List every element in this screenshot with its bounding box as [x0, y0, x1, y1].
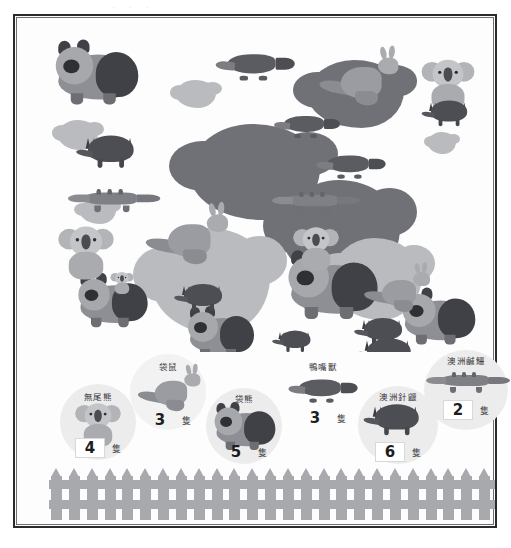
fence-picket [301, 476, 312, 520]
legend-label: 澳洲鹹鱷 [424, 354, 508, 366]
legend-item-kangaroo[interactable]: 袋鼠 3 隻 [130, 354, 206, 430]
top-cropped-text: ··· [112, 0, 302, 9]
paint-splat-light [428, 132, 456, 154]
legend-label: 無尾熊 [60, 390, 136, 402]
fence-picket-tip [69, 468, 79, 477]
legend-count: 6 隻 [358, 442, 438, 462]
legend-unit: 隻 [480, 404, 489, 417]
echidna-figure [180, 282, 228, 310]
fence-picket-tip [247, 468, 257, 477]
fence-picket-tip [265, 468, 275, 477]
crocodile-icon [432, 372, 502, 390]
fence-picket-tip [176, 468, 186, 477]
fence-picket-tip [390, 468, 400, 477]
fence-picket [336, 476, 347, 520]
legend-count-box: 2 [443, 400, 473, 420]
fence-picket [283, 476, 294, 520]
legend-unit: 隻 [258, 446, 267, 459]
legend-unit: 隻 [337, 412, 346, 425]
fence-picket [319, 476, 330, 520]
fence-picket-tip [122, 468, 132, 477]
fence-picket-tip [408, 468, 418, 477]
fence-picket-tip [158, 468, 168, 477]
fence-picket [122, 476, 133, 520]
fence-picket [69, 476, 80, 520]
fence-picket [87, 476, 98, 520]
fence-picket [51, 476, 62, 520]
page-frame: 無尾熊 4 隻 袋鼠 [13, 14, 497, 528]
fence-picket [390, 476, 401, 520]
legend-count: 2 隻 [424, 400, 508, 420]
picket-fence [49, 468, 495, 520]
fence-picket [354, 476, 365, 520]
echidna-figure [83, 133, 141, 167]
legend-item-koala[interactable]: 無尾熊 4 隻 [60, 384, 136, 460]
fence-picket [479, 476, 490, 520]
fence-picket [176, 476, 187, 520]
legend-item-platypus[interactable]: 鴨嘴獸 3 隻 [280, 354, 366, 430]
legend-count: 4 隻 [60, 438, 136, 458]
fence-picket-tip [212, 468, 222, 477]
legend-count-box: 3 [300, 408, 330, 428]
fence-picket [372, 476, 383, 520]
fence-picket-tip [354, 468, 364, 477]
fence-picket [443, 476, 454, 520]
legend-unit: 隻 [412, 446, 421, 459]
fence-picket [265, 476, 276, 520]
fence-picket [426, 476, 437, 520]
fence-picket-tip [87, 468, 97, 477]
fence-picket-tip [443, 468, 453, 477]
platypus-figure [321, 153, 380, 176]
legend-label: 袋熊 [206, 392, 282, 404]
wombat-figure [58, 45, 136, 100]
fence-picket [140, 476, 151, 520]
fence-picket [461, 476, 472, 520]
fence-picket-tip [301, 468, 311, 477]
fence-picket-tip [283, 468, 293, 477]
legend-row: 無尾熊 4 隻 袋鼠 [30, 346, 510, 461]
fence-picket-tip [372, 468, 382, 477]
platypus-figure [220, 52, 287, 78]
kangaroo-figure [151, 212, 226, 275]
legend-unit: 隻 [112, 442, 121, 455]
legend-count: 5 隻 [206, 442, 282, 462]
animals-scene [30, 32, 510, 352]
fence-picket [229, 476, 240, 520]
fence-picket-tip [319, 468, 329, 477]
legend-count-box: 5 [221, 442, 251, 462]
legend-item-wombat[interactable]: 袋熊 5 隻 [206, 388, 282, 464]
legend-count: 3 隻 [130, 410, 206, 430]
kangaroo-figure [324, 55, 396, 115]
fence-picket [212, 476, 223, 520]
fence-picket [158, 476, 169, 520]
legend-count-box: 4 [75, 438, 105, 458]
fence-picket-tip [229, 468, 239, 477]
legend-count-box: 3 [145, 410, 175, 430]
koala-figure [61, 227, 112, 280]
wombat-icon [216, 406, 273, 446]
crocodile-figure [278, 192, 352, 211]
fence-picket-tip [461, 468, 471, 477]
fence-picket-tip [194, 468, 204, 477]
koala-figure [111, 272, 132, 294]
fence-picket-tip [336, 468, 346, 477]
fence-picket-tip [105, 468, 115, 477]
legend-count: 3 隻 [280, 408, 366, 428]
platypus-icon [293, 377, 352, 400]
echidna-icon [370, 402, 425, 434]
fence-picket-tip [51, 468, 61, 477]
fence-picket [105, 476, 116, 520]
echidna-figure [427, 99, 473, 126]
legend-unit: 隻 [182, 414, 191, 427]
crocodile-figure [75, 189, 152, 209]
koala-figure [295, 227, 337, 271]
worksheet-page: ··· [0, 0, 511, 548]
legend-item-crocodile[interactable]: 澳洲鹹鱷 2 隻 [424, 350, 508, 430]
paint-splat-light [176, 80, 216, 108]
platypus-figure [278, 114, 334, 136]
fence-picket-tip [140, 468, 150, 477]
fence-picket-tip [479, 468, 489, 477]
fence-picket [194, 476, 205, 520]
fence-picket [408, 476, 419, 520]
legend-count-box: 6 [375, 442, 405, 462]
